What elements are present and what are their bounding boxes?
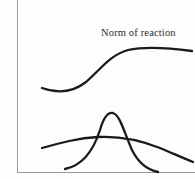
norm-of-reaction-figure: Norm of reaction — [0, 0, 195, 179]
wide-distribution-curve — [42, 137, 193, 162]
sigmoid-curve — [42, 48, 192, 91]
norm-of-reaction-label: Norm of reaction — [101, 27, 176, 39]
